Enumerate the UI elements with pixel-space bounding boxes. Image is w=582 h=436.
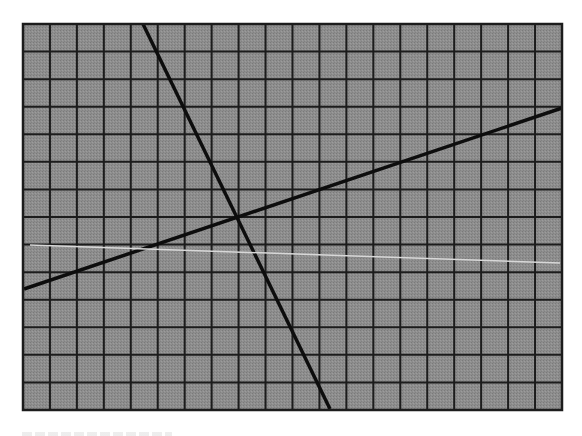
- diagram-canvas: [0, 0, 582, 436]
- cropped-caption-fragment: [22, 432, 172, 436]
- graph-paper-diagram: [0, 0, 582, 436]
- grid-lines: [23, 24, 562, 410]
